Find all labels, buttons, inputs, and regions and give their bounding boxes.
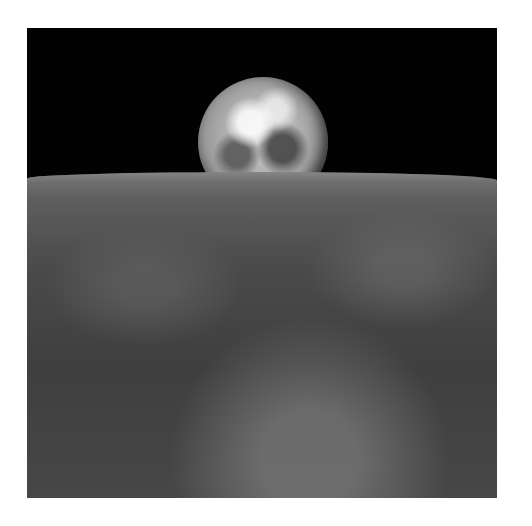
lunar-horizon	[27, 172, 497, 184]
earthrise-photo	[27, 28, 497, 498]
lunar-surface	[27, 172, 497, 498]
